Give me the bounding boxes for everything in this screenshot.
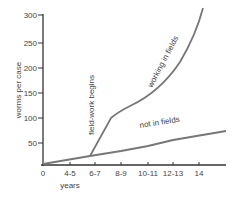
chart: 300 250 200 150 100 50 0 4-5 6-7 8-9 10-… [0, 0, 238, 198]
y-tick-label: 50 [28, 139, 37, 148]
x-tick-label: 10-11 [138, 169, 158, 178]
x-tick-label: 12-13 [163, 169, 184, 178]
y-tick-label: 100 [24, 114, 38, 123]
y-tick-labels: 300 250 200 150 100 50 [24, 11, 38, 148]
y-tick-label: 250 [24, 39, 38, 48]
field-work-begins-annotation: field-work begins [87, 75, 96, 135]
x-tick-label: 6-7 [89, 169, 101, 178]
x-tick-label: 0 [41, 169, 46, 178]
series-label-not-in-fields: not in fields [139, 115, 180, 130]
x-axis-label: years [60, 181, 80, 190]
y-tick-label: 300 [24, 11, 38, 20]
y-axis-label: worms per case [14, 61, 23, 119]
x-tick-label: 4-5 [64, 169, 76, 178]
y-tick-label: 150 [24, 89, 38, 98]
x-tick-labels: 0 4-5 6-7 8-9 10-11 12-13 14 [41, 169, 204, 178]
y-ticks [38, 15, 43, 143]
x-tick-label: 8-9 [115, 169, 127, 178]
series-label-working-in-fields: working in fields [145, 34, 180, 89]
series-not-in-fields-line [43, 131, 226, 164]
x-tick-label: 14 [195, 169, 204, 178]
y-tick-label: 200 [24, 64, 38, 73]
